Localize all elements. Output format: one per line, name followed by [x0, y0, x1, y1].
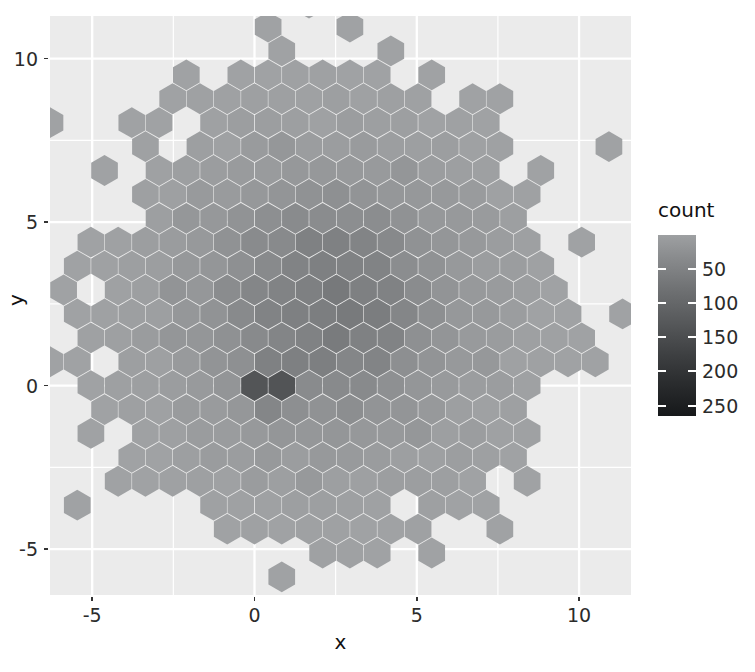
y-axis-title: y [6, 270, 26, 330]
legend-tick-mark [658, 268, 666, 270]
legend-gradient [658, 235, 696, 416]
legend-tick-mark [658, 336, 666, 338]
legend-tick-label: 50 [702, 260, 726, 279]
legend-tick-label: 200 [702, 362, 738, 381]
legend-tick-label: 250 [702, 397, 738, 416]
x-axis-title: x [0, 632, 681, 652]
clipped-title [0, 0, 681, 2]
plot-panel [50, 16, 631, 595]
x-tick-label: 10 [539, 606, 619, 625]
legend-tick-label: 100 [702, 294, 738, 313]
x-tick-label: 0 [214, 606, 294, 625]
y-tick-mark [44, 221, 48, 223]
chart-root: -50510-50510 x y count 50100150200250 [0, 0, 755, 672]
y-tick-label: 10 [0, 50, 38, 69]
legend-tick-label: 150 [702, 328, 738, 347]
y-tick-mark [44, 385, 48, 387]
legend-tick-mark [688, 268, 696, 270]
x-tick-label: -5 [52, 606, 132, 625]
x-tick-mark [578, 597, 580, 601]
legend-tick-mark [688, 302, 696, 304]
y-tick-mark [44, 548, 48, 550]
x-tick-label: 5 [377, 606, 457, 625]
legend-tick-mark [658, 405, 666, 407]
legend: count 50100150200250 [650, 200, 755, 440]
legend-tick-mark [688, 336, 696, 338]
y-tick-mark [44, 58, 48, 60]
hexbin-layer [50, 16, 631, 595]
legend-tick-mark [658, 370, 666, 372]
legend-colorbar [658, 235, 696, 416]
x-tick-mark [416, 597, 418, 601]
x-tick-mark [91, 597, 93, 601]
legend-tick-mark [688, 370, 696, 372]
y-tick-label: 5 [0, 213, 38, 232]
plot-panel-wrapper [50, 16, 631, 595]
legend-tick-mark [688, 405, 696, 407]
y-tick-label: 0 [0, 377, 38, 396]
legend-tick-mark [658, 302, 666, 304]
legend-title: count [658, 200, 714, 220]
y-tick-label: -5 [0, 540, 38, 559]
x-tick-mark [254, 597, 256, 601]
